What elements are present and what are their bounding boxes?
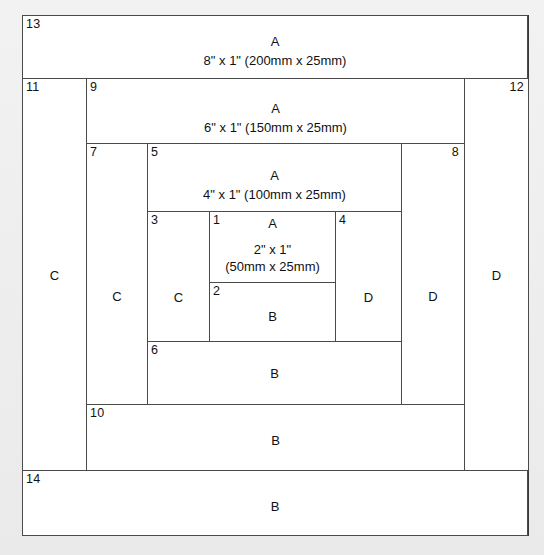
piece-1-fabric: A (210, 216, 335, 231)
piece-14-fabric: B (23, 499, 527, 514)
piece-3-fabric: C (148, 290, 209, 305)
piece-2-number: 2 (213, 284, 220, 298)
piece-13: 13 A 8" x 1" (200mm x 25mm) (22, 15, 528, 79)
piece-13-dimensions: 8" x 1" (200mm x 25mm) (23, 53, 527, 69)
piece-11-number: 11 (26, 80, 40, 94)
piece-10-number: 10 (90, 406, 105, 420)
piece-6-number: 6 (151, 343, 158, 357)
piece-13-number: 13 (26, 17, 41, 31)
piece-14-number: 14 (26, 472, 41, 486)
piece-4-fabric: D (336, 290, 401, 305)
piece-5-dimensions: 4" x 1" (100mm x 25mm) (148, 187, 401, 203)
piece-1-dimensions-metric: (50mm x 25mm) (210, 259, 335, 275)
piece-5: 5 A 4" x 1" (100mm x 25mm) (147, 143, 402, 212)
piece-9: 9 A 6" x 1" (150mm x 25mm) (86, 78, 465, 144)
piece-9-fabric: A (87, 101, 464, 116)
piece-4-number: 4 (339, 213, 346, 227)
piece-6: 6 B (147, 341, 402, 405)
piece-11-fabric: C (23, 267, 86, 282)
piece-7-fabric: C (87, 289, 147, 304)
piece-13-fabric: A (23, 34, 527, 49)
piece-8: 8 D (401, 143, 465, 405)
piece-7-number: 7 (90, 145, 97, 159)
piece-12-number: 12 (509, 80, 524, 94)
piece-14: 14 B (22, 470, 528, 536)
piece-7: 7 C (86, 143, 148, 405)
piece-4: 4 D (335, 211, 402, 342)
piece-9-dimensions: 6" x 1" (150mm x 25mm) (87, 120, 464, 136)
piece-9-number: 9 (90, 80, 97, 94)
piece-11: 11 C (22, 78, 87, 471)
piece-5-number: 5 (151, 145, 158, 159)
piece-2-fabric: B (210, 309, 335, 324)
piece-12-fabric: D (465, 267, 528, 282)
piece-3: 3 C (147, 211, 210, 342)
piece-8-fabric: D (402, 289, 464, 304)
piece-10-fabric: B (87, 433, 464, 448)
piece-8-number: 8 (452, 145, 459, 159)
piece-6-fabric: B (148, 366, 401, 381)
piece-5-fabric: A (148, 168, 401, 183)
piece-2: 2 B (209, 282, 336, 342)
piece-3-number: 3 (151, 213, 158, 227)
piece-12: 12 D (464, 78, 529, 471)
piece-10: 10 B (86, 404, 465, 471)
log-cabin-block-diagram: 13 A 8" x 1" (200mm x 25mm) 11 C 12 D 9 … (22, 15, 529, 536)
piece-1-dimensions-imperial: 2" x 1" (210, 242, 335, 258)
piece-1: 1 A 2" x 1" (50mm x 25mm) (209, 211, 336, 283)
